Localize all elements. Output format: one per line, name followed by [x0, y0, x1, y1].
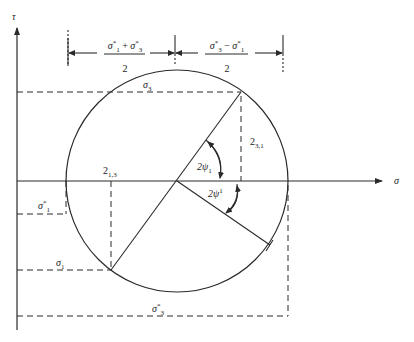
dashed-guides [17, 92, 288, 316]
axes [17, 28, 382, 330]
tau31-label: 23,1 [250, 137, 264, 150]
dimension-lines [68, 30, 283, 72]
dimension-left-fraction: σ*1 + σ*3 2 [104, 40, 146, 74]
sigma-axis-label: σ [394, 176, 399, 186]
sigma1-star-label: σ*1 [38, 200, 50, 214]
dimension-right-fraction: σ*3 − σ*1 2 [206, 40, 248, 74]
angle-2psi1-label: 2ψ1 [197, 162, 212, 175]
angle-2psi-sup1-label: 2ψ1 [208, 188, 223, 199]
sigma3-star-label: σ*3 [152, 303, 164, 317]
mohr-circle-diagram: τ σ σ*1 + σ*3 2 σ*3 − σ*1 2 σ3 23,1 21,3… [0, 0, 414, 342]
sigma1-label: σ1 [56, 258, 64, 271]
radius-line-lower [177, 181, 270, 245]
tau13-label: 21,3 [103, 166, 117, 179]
sigma3-label: σ3 [143, 80, 151, 93]
angle-arcs [206, 140, 238, 213]
tau-axis-label: τ [12, 12, 16, 22]
